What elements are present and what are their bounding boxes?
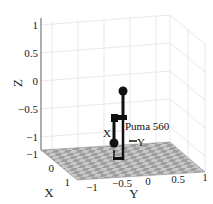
y-axis-label: Y — [129, 186, 139, 201]
y-tick-neg1: −1 — [86, 181, 98, 193]
y-tick-0.5: 0.5 — [171, 173, 185, 185]
robot-elbow-sphere — [119, 87, 128, 96]
z-tick-0: 0 — [33, 75, 39, 87]
robot-3d-plot: 1 0.5 0 −0.5 −1 Z −1 0 1 X −1 −0.5 0 0.5… — [0, 0, 213, 204]
z-tick-neg1: −1 — [26, 131, 38, 143]
y-tick-1: 1 — [202, 171, 208, 183]
z-tick-1: 1 — [33, 19, 39, 31]
tool-frame-y-label: Y — [137, 136, 145, 148]
x-axis-label: X — [44, 185, 54, 200]
tool-frame-x-label: X — [103, 127, 111, 139]
robot-name-label: Puma 560 — [125, 120, 170, 132]
z-tick-0.5: 0.5 — [24, 47, 38, 59]
robot-wrist-sphere — [110, 139, 119, 148]
x-tick-0: 0 — [49, 162, 55, 174]
x-tick-neg1: −1 — [26, 148, 38, 160]
y-tick-0: 0 — [145, 175, 151, 187]
z-tick-neg0.5: −0.5 — [18, 103, 38, 115]
x-tick-1: 1 — [65, 176, 71, 188]
z-axis-label: Z — [10, 79, 25, 87]
